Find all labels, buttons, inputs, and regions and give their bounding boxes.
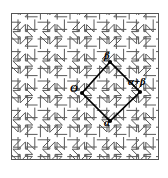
label-alpha: α xyxy=(104,117,110,128)
label-origin: O xyxy=(70,83,78,94)
vertex-dot-alpha-plus-beta xyxy=(138,90,142,94)
figure-root: O β α α+β xyxy=(0,0,168,178)
label-beta: β xyxy=(104,50,109,61)
tiling-diagram xyxy=(0,0,168,178)
label-alpha-plus-beta: α+β xyxy=(128,76,145,87)
vertex-dot-origin xyxy=(80,91,84,95)
